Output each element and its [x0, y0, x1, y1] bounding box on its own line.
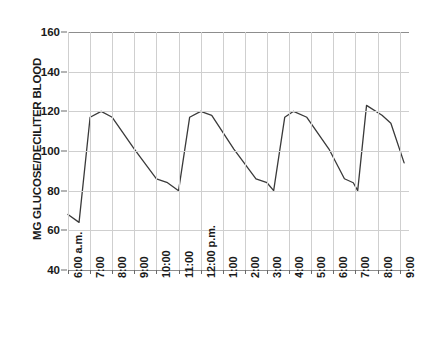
- y-tick-label: 60: [47, 224, 60, 236]
- x-tick-mark: [355, 270, 356, 274]
- x-tick-label: 6:00: [337, 256, 349, 278]
- gridline-horizontal: [68, 191, 409, 192]
- x-tick-label: 8:00: [116, 256, 128, 278]
- x-tick-label: 7:00: [94, 256, 106, 278]
- y-tick-label: 100: [41, 145, 60, 157]
- y-tick-label: 40: [47, 264, 60, 276]
- y-tick-mark: [61, 230, 67, 231]
- x-tick-mark: [267, 270, 268, 274]
- gridline-vertical: [333, 32, 334, 270]
- gridline-vertical: [245, 32, 246, 270]
- y-tick-mark: [61, 190, 67, 191]
- x-tick-mark: [311, 270, 312, 274]
- x-tick-label: 3:00: [271, 256, 283, 278]
- x-tick-label: 5:00: [315, 256, 327, 278]
- glucose-line-chart: MG GLUCOSE/DECILITER BLOOD 4060801001201…: [0, 0, 429, 354]
- y-tick-label: 80: [47, 185, 60, 197]
- gridline-horizontal: [68, 72, 409, 73]
- y-tick-mark: [61, 151, 67, 152]
- x-tick-mark: [134, 270, 135, 274]
- x-tick-label: 9:00: [138, 256, 150, 278]
- y-tick-mark: [61, 270, 67, 271]
- gridline-vertical: [223, 32, 224, 270]
- x-tick-mark: [333, 270, 334, 274]
- gridline-horizontal: [68, 151, 409, 152]
- gridline-vertical: [378, 32, 379, 270]
- x-tick-label: 9:00: [404, 256, 416, 278]
- x-tick-label: 1:00: [227, 256, 239, 278]
- gridline-horizontal: [68, 32, 409, 33]
- gridline-horizontal: [68, 111, 409, 112]
- x-tick-label: 12:00 p.m.: [205, 225, 217, 278]
- data-line: [68, 105, 404, 222]
- gridline-vertical: [355, 32, 356, 270]
- plot-area: 4060801001201401606:00 a.m.7:008:009:001…: [68, 32, 409, 270]
- gridline-vertical: [90, 32, 91, 270]
- y-tick-label: 120: [41, 105, 60, 117]
- x-tick-mark: [400, 270, 401, 274]
- gridline-horizontal: [68, 230, 409, 231]
- x-tick-label: 8:00: [382, 256, 394, 278]
- x-tick-label: 7:00: [359, 256, 371, 278]
- gridline-vertical: [289, 32, 290, 270]
- x-tick-mark: [378, 270, 379, 274]
- y-tick-mark: [61, 32, 67, 33]
- x-tick-mark: [179, 270, 180, 274]
- gridline-vertical: [134, 32, 135, 270]
- x-tick-mark: [201, 270, 202, 274]
- x-tick-mark: [112, 270, 113, 274]
- gridline-vertical: [68, 32, 69, 270]
- x-tick-label: 11:00: [183, 251, 195, 278]
- x-tick-mark: [68, 270, 69, 274]
- x-tick-label: 2:00: [249, 256, 261, 278]
- gridline-vertical: [400, 32, 401, 270]
- x-tick-mark: [156, 270, 157, 274]
- gridline-vertical: [156, 32, 157, 270]
- gridline-vertical: [112, 32, 113, 270]
- x-tick-label: 6:00 a.m.: [72, 232, 84, 278]
- x-tick-mark: [289, 270, 290, 274]
- x-tick-mark: [223, 270, 224, 274]
- x-tick-label: 4:00: [293, 256, 305, 278]
- gridline-vertical: [201, 32, 202, 270]
- gridline-vertical: [267, 32, 268, 270]
- x-tick-mark: [245, 270, 246, 274]
- y-tick-label: 160: [41, 26, 60, 38]
- y-tick-mark: [61, 111, 67, 112]
- gridline-vertical: [179, 32, 180, 270]
- x-tick-mark: [90, 270, 91, 274]
- gridline-vertical: [311, 32, 312, 270]
- x-tick-label: 10:00: [160, 250, 172, 278]
- y-tick-mark: [61, 71, 67, 72]
- y-tick-label: 140: [41, 66, 60, 78]
